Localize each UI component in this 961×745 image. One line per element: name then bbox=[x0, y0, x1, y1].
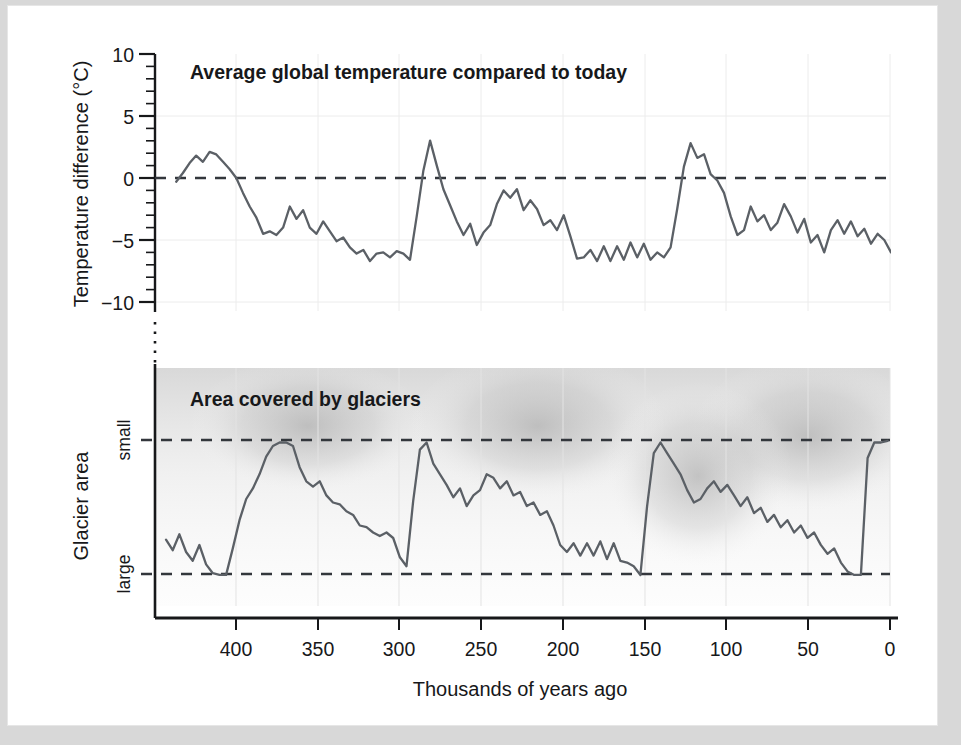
glacier-axis-label: Glacier area bbox=[70, 451, 92, 561]
glacier-ytick-large: large bbox=[114, 555, 134, 594]
xtick-150: 150 bbox=[629, 638, 662, 660]
x-axis-label: Thousands of years ago bbox=[413, 678, 628, 700]
glacier-panel-title: Area covered by glaciers bbox=[190, 388, 421, 410]
glacier-shading-blob-1 bbox=[188, 356, 428, 496]
figure-page: 10 5 0 −5 −10 Temperature difference (°C… bbox=[8, 6, 937, 725]
xtick-200: 200 bbox=[547, 638, 580, 660]
glacier-ytick-small: small bbox=[114, 420, 134, 461]
temperature-ytick-minus5: −5 bbox=[112, 230, 134, 252]
right-margin-mask bbox=[891, 50, 937, 318]
temperature-ytick-minus10: −10 bbox=[101, 292, 134, 314]
glacier-shading-blob-4 bbox=[603, 381, 793, 571]
xtick-0: 0 bbox=[885, 638, 896, 660]
xtick-100: 100 bbox=[710, 638, 743, 660]
climate-figure: 10 5 0 −5 −10 Temperature difference (°C… bbox=[8, 6, 937, 725]
temperature-ytick-10: 10 bbox=[112, 44, 134, 66]
xtick-50: 50 bbox=[797, 638, 819, 660]
figure-svg: 10 5 0 −5 −10 Temperature difference (°C… bbox=[8, 6, 937, 725]
xtick-300: 300 bbox=[383, 638, 416, 660]
xtick-350: 350 bbox=[302, 638, 335, 660]
xtick-400: 400 bbox=[220, 638, 253, 660]
temperature-panel-title: Average global temperature compared to t… bbox=[190, 61, 627, 83]
temperature-axis-label: Temperature difference (°C) bbox=[70, 61, 92, 308]
temperature-ytick-5: 5 bbox=[123, 106, 134, 128]
temperature-ytick-0: 0 bbox=[123, 168, 134, 190]
xtick-250: 250 bbox=[465, 638, 498, 660]
glacier-shading-group bbox=[155, 348, 928, 606]
